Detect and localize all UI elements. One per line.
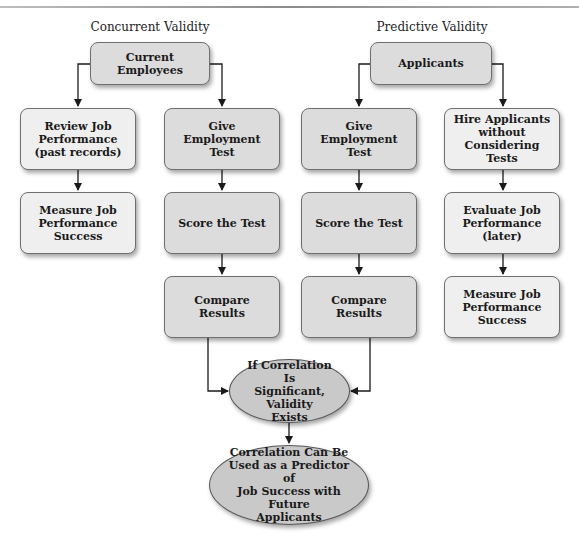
node-label: Current Employees xyxy=(97,51,203,77)
node-label: Score the Test xyxy=(315,217,403,230)
node-label: Measure Job Performance Success xyxy=(462,288,541,327)
node-measure-job-performance-predictive: Measure Job Performance Success xyxy=(444,276,560,338)
node-evaluate-job-performance: Evaluate Job Performance (later) xyxy=(444,192,560,254)
node-label: Compare Results xyxy=(308,294,410,320)
node-label: Give Employment Test xyxy=(308,120,410,159)
node-compare-results-predictive: Compare Results xyxy=(301,276,417,338)
node-label: Give Employment Test xyxy=(171,120,273,159)
node-label: Evaluate Job Performance (later) xyxy=(451,204,553,243)
heading-predictive-validity: Predictive Validity xyxy=(362,20,502,34)
node-current-employees: Current Employees xyxy=(90,42,210,85)
node-correlation-predictor: Correlation Can Be Used as a Predictor o… xyxy=(209,445,369,525)
node-label: Compare Results xyxy=(171,294,273,320)
node-hire-applicants: Hire Applicants without Considering Test… xyxy=(444,108,560,170)
node-score-test-concurrent: Score the Test xyxy=(164,192,280,254)
node-give-employment-test-concurrent: Give Employment Test xyxy=(164,108,280,170)
node-label: If Correlation Is Significant, Validity … xyxy=(242,359,337,424)
node-label: Score the Test xyxy=(178,217,266,230)
node-correlation-significant: If Correlation Is Significant, Validity … xyxy=(229,359,350,423)
node-label: Review Job Performance (past records) xyxy=(35,120,122,159)
node-label: Measure Job Performance Success xyxy=(38,204,117,243)
node-label: Applicants xyxy=(398,57,463,70)
node-label: Hire Applicants without Considering Test… xyxy=(451,113,553,165)
node-compare-results-concurrent: Compare Results xyxy=(164,276,280,338)
node-applicants: Applicants xyxy=(370,42,492,85)
node-measure-job-performance-concurrent: Measure Job Performance Success xyxy=(20,192,136,254)
node-review-job-performance: Review Job Performance (past records) xyxy=(20,108,136,170)
heading-concurrent-validity: Concurrent Validity xyxy=(80,20,220,34)
node-score-test-predictive: Score the Test xyxy=(301,192,417,254)
node-label: Correlation Can Be Used as a Predictor o… xyxy=(222,446,356,524)
node-give-employment-test-predictive: Give Employment Test xyxy=(301,108,417,170)
